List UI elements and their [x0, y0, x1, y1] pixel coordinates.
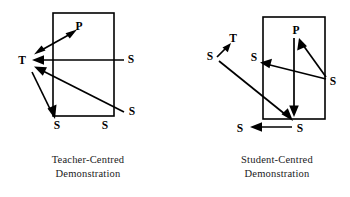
label-p-left: P — [75, 20, 82, 32]
label-s-right-right: S — [330, 75, 336, 87]
figure-canvas: P T S S S S Teacher-Centred Demonstratio… — [0, 0, 350, 197]
arrow-s-bottom-right-to-s-bottom-left — [250, 122, 292, 132]
label-s-far-left-right: S — [207, 50, 213, 62]
caption-teacher-centred-line1: Teacher-Centred — [52, 154, 125, 165]
label-s-bottom-left-right: S — [237, 122, 243, 134]
arrow-s-far-left-to-t — [217, 43, 231, 57]
two-panel-classroom-diagram: P T S S S S Teacher-Centred Demonstratio… — [0, 0, 350, 197]
label-s-right-mid-left: S — [128, 53, 134, 65]
arrow-p-to-t-double — [34, 30, 77, 55]
label-s-bottom-mid-left: S — [102, 119, 108, 131]
caption-teacher-centred-line2: Demonstration — [55, 168, 121, 179]
label-s-inner-left-right: S — [251, 51, 257, 63]
label-s-right-low-left: S — [129, 105, 135, 117]
caption-student-centred-line2: Demonstration — [244, 168, 310, 179]
label-p-right: P — [292, 24, 299, 36]
panel-teacher-centred: P T S S S S Teacher-Centred Demonstratio… — [18, 13, 135, 179]
label-s-bottom-left-left: S — [54, 119, 60, 131]
panel-student-centred: T S P S S S S Student-Centred Demonstrat… — [207, 17, 336, 179]
label-t-right: T — [229, 32, 237, 44]
arrow-t-down-to-s-bottom-right — [219, 61, 293, 121]
arrow-s-right-mid-to-t — [32, 55, 124, 65]
label-t-left: T — [18, 54, 26, 66]
label-s-bottom-right-right: S — [297, 122, 303, 134]
arrow-s-right-to-p — [297, 38, 326, 77]
caption-student-centred-line1: Student-Centred — [241, 154, 313, 165]
classroom-box-left — [53, 13, 114, 116]
